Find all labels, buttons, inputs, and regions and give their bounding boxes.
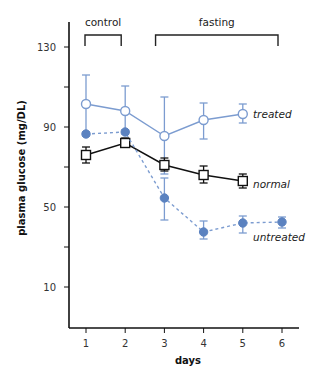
x-tick-label: 5 [240,338,246,349]
open-square-marker [160,161,169,170]
filled-circle-marker [82,130,90,138]
series-normal: normal [82,138,291,190]
filled-circle-marker [160,194,168,202]
y-tick-label: 50 [43,202,56,213]
x-tick-label: 3 [161,338,167,349]
filled-circle-marker [199,228,207,236]
open-circle-marker [160,132,169,141]
series-treated: treated [82,75,292,174]
y-tick-label: 10 [43,282,56,293]
group-label-fasting: fasting [199,16,235,28]
group-brackets: controlfasting [85,16,278,46]
filled-circle-marker [121,128,129,136]
series-label-normal: normal [253,178,290,190]
data-series: treatednormaluntreated [82,75,306,243]
x-tick-label: 4 [200,338,206,349]
open-square-marker [82,151,91,160]
open-circle-marker [121,107,130,116]
filled-circle-marker [239,219,247,227]
series-label-treated: treated [253,108,292,120]
x-axis-title: days [175,355,201,366]
y-tick-label: 90 [43,122,56,133]
open-circle-marker [82,100,91,109]
glucose-chart: 130905010123456 controlfasting treatedno… [0,0,316,380]
open-circle-marker [199,116,208,125]
filled-circle-marker [278,218,286,226]
y-axis-title: plasma glucose (mg/DL) [16,100,27,236]
group-bracket-fasting [156,35,278,46]
series-label-untreated: untreated [253,231,305,243]
open-square-marker [121,139,130,148]
open-square-marker [238,177,247,186]
group-label-control: control [85,16,121,28]
open-circle-marker [238,110,247,119]
x-tick-label: 6 [279,338,285,349]
group-bracket-control [85,35,121,46]
x-tick-label: 2 [122,338,128,349]
y-tick-label: 130 [37,42,56,53]
open-square-marker [199,171,208,180]
x-tick-label: 1 [83,338,89,349]
